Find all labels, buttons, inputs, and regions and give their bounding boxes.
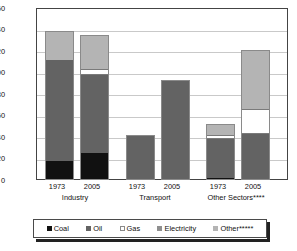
bar-transport-1973[interactable]: [126, 135, 155, 180]
legend-label: Coal: [54, 225, 69, 233]
legend-shadow-right: [267, 222, 270, 242]
x-group-label-other-sectors: Other Sectors****: [181, 194, 291, 202]
y-tick-label: 120: [0, 48, 5, 55]
legend-swatch-oil-icon: [86, 226, 91, 231]
bar-segment-oil: [241, 134, 270, 180]
y-tick-label: 60: [0, 112, 5, 119]
x-axis: 1973 2005 Industry 1973 2005 Transport 1…: [36, 180, 288, 216]
legend-item-coal[interactable]: Coal: [47, 225, 69, 233]
bars-layer: [36, 8, 288, 180]
bar-industry-1973[interactable]: [45, 31, 74, 180]
legend-shadow: [36, 239, 270, 242]
x-tick-label: 2005: [233, 183, 273, 191]
bar-other-sectors-2005[interactable]: [241, 50, 270, 180]
bar-other-sectors-1973[interactable]: [206, 124, 235, 180]
legend-item-electricity[interactable]: Electricity: [157, 225, 196, 233]
legend-label: Oil: [93, 225, 102, 233]
bar-segment-oil: [80, 75, 109, 153]
bar-segment-gas: [241, 109, 270, 134]
legend-label: Gas: [127, 225, 141, 233]
x-tick-label: 2005: [72, 183, 112, 191]
legend-item-gas[interactable]: Gas: [120, 225, 141, 233]
legend-label: Other*****: [220, 225, 253, 233]
bar-segment-other: [206, 124, 235, 135]
bar-segment-other: [45, 31, 74, 60]
bar-segment-oil: [126, 135, 155, 180]
legend-swatch-other-icon: [213, 226, 218, 231]
y-tick-label: 140: [0, 26, 5, 33]
x-tick-label: 1973: [117, 183, 157, 191]
legend-swatch-coal-icon: [47, 226, 52, 231]
chart-legend: CoalOilGasElectricityOther*****: [33, 219, 267, 238]
bar-industry-2005[interactable]: [80, 35, 109, 180]
x-tick-label: 2005: [152, 183, 192, 191]
bar-segment-oil: [45, 60, 74, 161]
bar-segment-coal: [80, 153, 109, 180]
y-tick-label: 0: [0, 177, 5, 184]
bar-segment-coal: [45, 161, 74, 180]
legend-item-other[interactable]: Other*****: [213, 225, 253, 233]
bar-segment-gas: [80, 69, 109, 74]
y-tick-label: 80: [0, 91, 5, 98]
bar-segment-oil: [161, 80, 190, 180]
y-tick-label: 100: [0, 69, 5, 76]
y-tick-label: 160: [0, 5, 5, 12]
x-tick-label: 1973: [198, 183, 238, 191]
y-tick-label: 40: [0, 134, 5, 141]
bar-segment-gas: [206, 135, 235, 139]
bar-transport-2005[interactable]: [161, 80, 190, 180]
y-tick-label: 20: [0, 155, 5, 162]
legend-item-oil[interactable]: Oil: [86, 225, 102, 233]
bar-segment-other: [80, 35, 109, 69]
legend-label: Electricity: [164, 225, 196, 233]
bar-segment-other: [241, 50, 270, 109]
bar-segment-oil: [206, 139, 235, 178]
x-tick-label: 1973: [37, 183, 77, 191]
legend-swatch-gas-icon: [120, 226, 125, 231]
legend-swatch-electricity-icon: [157, 226, 162, 231]
stacked-bar-chart: Mtoe 160 140 120 100 80 60 40 20 0 1973 …: [0, 0, 297, 251]
